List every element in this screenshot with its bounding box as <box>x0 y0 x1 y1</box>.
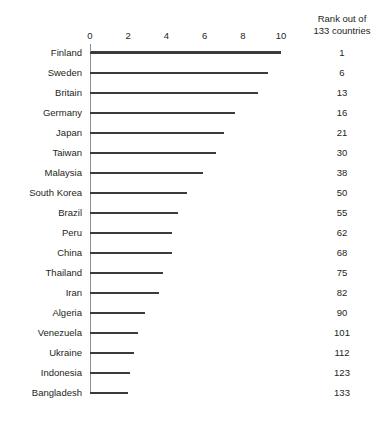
rank-value: 1 <box>296 47 388 58</box>
country-label: Japan <box>0 127 82 138</box>
value-bar <box>90 392 128 394</box>
value-bar <box>90 132 224 134</box>
chart-rows: Finland1Sweden6Britain13Germany16Japan21… <box>0 0 390 430</box>
rank-value: 123 <box>296 367 388 378</box>
country-label: Finland <box>0 47 82 58</box>
value-bar <box>90 312 145 314</box>
chart-row: Britain13 <box>0 87 390 107</box>
value-bar <box>90 172 203 174</box>
country-label: Venezuela <box>0 327 82 338</box>
country-label: Indonesia <box>0 367 82 378</box>
chart-row: Sweden6 <box>0 67 390 87</box>
country-label: Ukraine <box>0 347 82 358</box>
value-bar <box>90 52 281 54</box>
country-label: Peru <box>0 227 82 238</box>
chart-row: Peru62 <box>0 227 390 247</box>
chart-row: Malaysia38 <box>0 167 390 187</box>
chart-row: Bangladesh133 <box>0 387 390 407</box>
value-bar <box>90 92 258 94</box>
country-label: Malaysia <box>0 167 82 178</box>
value-bar <box>90 292 159 294</box>
country-label: South Korea <box>0 187 82 198</box>
value-bar <box>90 352 134 354</box>
chart-row: Thailand75 <box>0 267 390 287</box>
rank-value: 68 <box>296 247 388 258</box>
value-bar <box>90 332 138 334</box>
country-label: Britain <box>0 87 82 98</box>
chart-row: Brazil55 <box>0 207 390 227</box>
chart-row: Taiwan30 <box>0 147 390 167</box>
chart-row: Venezuela101 <box>0 327 390 347</box>
rank-value: 30 <box>296 147 388 158</box>
rank-value: 6 <box>296 67 388 78</box>
chart-row: Algeria90 <box>0 307 390 327</box>
rank-value: 13 <box>296 87 388 98</box>
country-label: Sweden <box>0 67 82 78</box>
value-bar <box>90 212 178 214</box>
country-label: Algeria <box>0 307 82 318</box>
value-bar <box>90 152 216 154</box>
country-label: Thailand <box>0 267 82 278</box>
value-bar <box>90 112 235 114</box>
rank-value: 75 <box>296 267 388 278</box>
chart-row: Ukraine112 <box>0 347 390 367</box>
country-label: Germany <box>0 107 82 118</box>
country-label: Iran <box>0 287 82 298</box>
rank-value: 82 <box>296 287 388 298</box>
rank-value: 62 <box>296 227 388 238</box>
chart-row: Germany16 <box>0 107 390 127</box>
value-bar <box>90 252 172 254</box>
rank-value: 133 <box>296 387 388 398</box>
country-label: China <box>0 247 82 258</box>
rank-value: 55 <box>296 207 388 218</box>
chart-row: Indonesia123 <box>0 367 390 387</box>
rank-value: 90 <box>296 307 388 318</box>
country-label: Bangladesh <box>0 387 82 398</box>
value-bar <box>90 72 268 74</box>
rank-value: 38 <box>296 167 388 178</box>
rank-value: 21 <box>296 127 388 138</box>
rank-value: 16 <box>296 107 388 118</box>
rank-value: 50 <box>296 187 388 198</box>
chart-row: Iran82 <box>0 287 390 307</box>
value-bar <box>90 272 163 274</box>
value-bar <box>90 192 187 194</box>
country-label: Taiwan <box>0 147 82 158</box>
value-bar <box>90 232 172 234</box>
country-label: Brazil <box>0 207 82 218</box>
chart-row: South Korea50 <box>0 187 390 207</box>
value-bar <box>90 372 130 374</box>
chart-row: Japan21 <box>0 127 390 147</box>
chart-row: China68 <box>0 247 390 267</box>
rank-value: 112 <box>296 347 388 358</box>
chart-figure: Rank out of 133 countries 0246810 Finlan… <box>0 0 390 430</box>
rank-value: 101 <box>296 327 388 338</box>
chart-row: Finland1 <box>0 47 390 67</box>
